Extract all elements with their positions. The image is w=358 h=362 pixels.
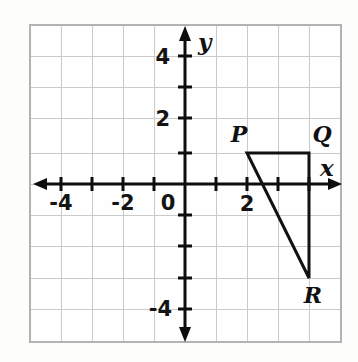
y-tick-label-2: 2	[155, 107, 170, 131]
coordinate-plane: -4 -2 0 2 4 2 -4 y x P Q R	[0, 0, 358, 362]
figure-canvas: -4 -2 0 2 4 2 -4 y x P Q R	[0, 0, 358, 362]
x-axis-label: x	[319, 154, 334, 181]
vertex-label-q: Q	[312, 121, 331, 147]
x-tick-label-neg4: -4	[49, 191, 72, 215]
origin-label: 0	[161, 191, 176, 215]
x-tick-label-neg2: -2	[111, 191, 134, 215]
x-tick-label-2: 2	[240, 192, 255, 216]
y-tick-label-neg4: -4	[149, 297, 172, 321]
vertex-label-p: P	[230, 121, 249, 147]
vertex-label-r: R	[303, 282, 322, 308]
y-tick-label-4: 4	[155, 45, 170, 69]
y-axis-label: y	[197, 28, 213, 55]
